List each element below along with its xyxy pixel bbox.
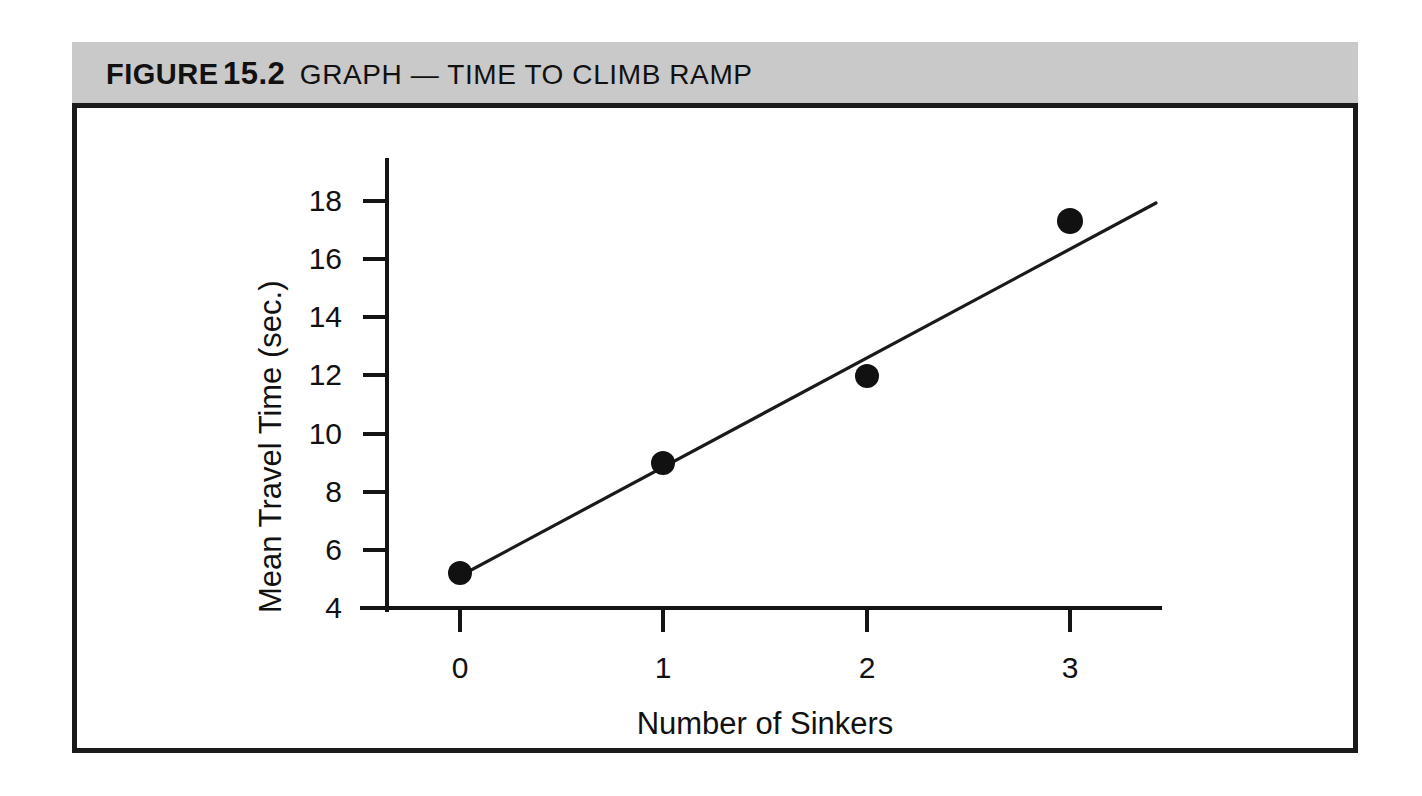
y-tick-label-4: 4 xyxy=(292,593,342,623)
x-tick-label-2: 2 xyxy=(859,653,876,683)
y-tick-label-6: 6 xyxy=(292,535,342,565)
y-axis-ticks xyxy=(363,201,387,608)
y-tick-label-8: 8 xyxy=(292,477,342,507)
figure-label: FIGURE xyxy=(106,57,219,89)
figure-caption: FIGURE 15.2 GRAPH — TIME TO CLIMB RAMP xyxy=(106,57,753,88)
chart-frame: 18 16 14 12 10 8 6 4 0 1 2 3 Mean Travel… xyxy=(72,103,1358,753)
data-point-3 xyxy=(1057,208,1083,234)
x-tick-label-1: 1 xyxy=(655,653,672,683)
figure-caption-text: GRAPH — TIME TO CLIMB RAMP xyxy=(300,58,753,89)
figure-caption-band: FIGURE 15.2 GRAPH — TIME TO CLIMB RAMP xyxy=(72,42,1358,103)
data-point-2 xyxy=(855,364,879,388)
x-tick-label-3: 3 xyxy=(1062,653,1079,683)
x-axis-ticks xyxy=(460,608,1070,632)
y-tick-label-12: 12 xyxy=(292,360,342,390)
data-points xyxy=(448,208,1083,585)
trend-line xyxy=(460,203,1156,576)
data-point-1 xyxy=(651,451,675,475)
y-tick-label-14: 14 xyxy=(292,302,342,332)
data-point-0 xyxy=(448,561,472,585)
figure-number: 15.2 xyxy=(223,55,285,90)
y-tick-label-18: 18 xyxy=(292,186,342,216)
x-axis-title: Number of Sinkers xyxy=(460,708,1070,739)
x-tick-label-0: 0 xyxy=(452,653,469,683)
figure-container: FIGURE 15.2 GRAPH — TIME TO CLIMB RAMP xyxy=(0,0,1422,796)
y-tick-label-10: 10 xyxy=(292,419,342,449)
y-tick-label-16: 16 xyxy=(292,244,342,274)
y-axis-title: Mean Travel Time (sec.) xyxy=(255,281,286,613)
